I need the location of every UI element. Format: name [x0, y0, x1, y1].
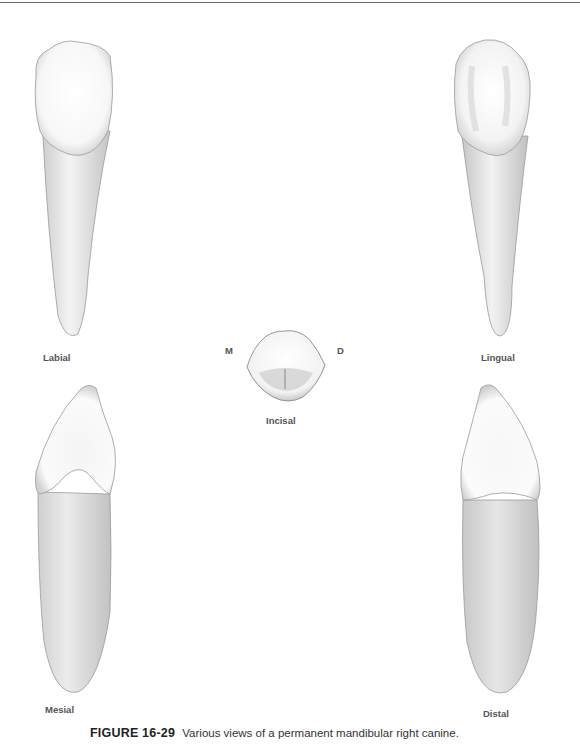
- distal-view-illustration: [455, 382, 550, 702]
- labial-view-illustration: [28, 36, 118, 346]
- page-header-rule: [0, 2, 580, 3]
- lingual-label: Lingual: [481, 352, 515, 363]
- incisal-label: Incisal: [266, 415, 296, 426]
- figure-caption-text: Various views of a permanent mandibular …: [182, 727, 459, 739]
- mesial-label: Mesial: [45, 704, 74, 715]
- figure-number: FIGURE 16-29: [90, 726, 175, 740]
- incisal-view-illustration: [243, 327, 328, 407]
- figure-caption: FIGURE 16-29 Various views of a permanen…: [90, 726, 459, 740]
- mesial-view-illustration: [30, 382, 125, 702]
- mesial-marker: M: [225, 345, 233, 356]
- lingual-view-illustration: [450, 36, 545, 346]
- labial-label: Labial: [43, 352, 70, 363]
- distal-marker: D: [337, 345, 344, 356]
- distal-label: Distal: [483, 708, 509, 719]
